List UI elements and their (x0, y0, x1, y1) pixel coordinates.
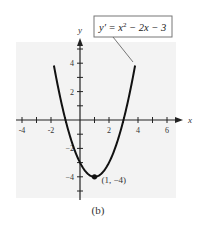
x-tick-label: 6 (165, 126, 169, 135)
equation-label: y′ = x2 − 2x − 3 (98, 21, 166, 33)
y-tick-label: 4 (70, 59, 74, 68)
x-tick-label: 4 (136, 126, 140, 135)
vertex-point (92, 174, 97, 179)
x-tick-label: -2 (48, 126, 55, 135)
x-tick-label: 2 (107, 126, 111, 135)
vertex-label: (1, −4) (102, 175, 127, 185)
function-graph: -4-224642−2−4xy (1, −4) y′ = x2 − 2x − 3 (0, 0, 199, 230)
y-axis-label: y (77, 25, 82, 35)
x-axis-label: x (187, 115, 192, 125)
x-tick-label: -4 (19, 126, 26, 135)
figure-caption: (b) (86, 204, 110, 216)
y-tick-label: 2 (70, 88, 74, 97)
y-tick-label: −4 (65, 173, 74, 182)
x-axis-arrow-icon (175, 117, 183, 123)
